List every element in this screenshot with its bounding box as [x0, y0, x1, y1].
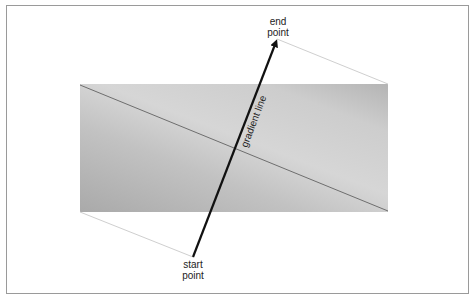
- guide-line-bottom: [80, 212, 193, 257]
- end-point-label: end point: [264, 16, 292, 38]
- start-point-label: start point: [178, 259, 208, 281]
- gradient-diagram: gradient line: [0, 0, 474, 299]
- guide-line-top: [277, 39, 388, 84]
